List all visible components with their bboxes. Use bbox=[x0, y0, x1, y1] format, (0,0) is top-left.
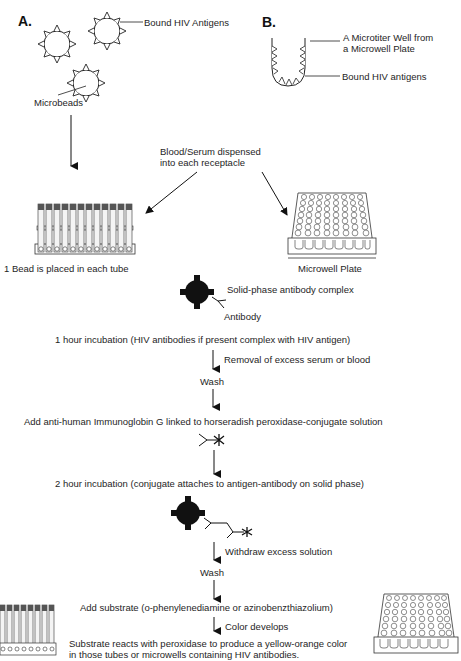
conjugate-icon bbox=[199, 434, 224, 446]
antigen-bead-icon bbox=[38, 25, 76, 63]
microbeads-label: Microbeads bbox=[34, 97, 83, 108]
bound-antigens-b-label: Bound HIV antigens bbox=[342, 71, 427, 82]
incubation2-text: 2 hour incubation (conjugate attaches to… bbox=[55, 478, 364, 489]
removal-text: Removal of excess serum or blood bbox=[224, 354, 370, 365]
dispense-line2: into each receptacle bbox=[160, 157, 245, 168]
antibody-label: Antibody bbox=[224, 311, 261, 322]
antigen-bead-icon bbox=[88, 12, 126, 50]
color-develops-text: Color develops bbox=[225, 621, 288, 632]
labeled-complex-icon bbox=[171, 496, 252, 538]
tubes-caption: 1 Bead is placed in each tube bbox=[4, 263, 129, 274]
withdraw-text: Withdraw excess solution bbox=[225, 546, 332, 557]
microwell-plate-icon bbox=[288, 193, 376, 258]
well-label-line1: A Microtiter Well from bbox=[343, 32, 433, 43]
panel-b-label: B. bbox=[262, 14, 276, 30]
solid-phase-antibody-icon bbox=[180, 275, 226, 309]
microtiter-well-icon bbox=[272, 38, 305, 86]
well-label-line2: a Microwell Plate bbox=[343, 43, 415, 54]
plate-caption: Microwell Plate bbox=[298, 263, 362, 274]
result-microwell-plate-icon bbox=[374, 594, 458, 653]
bound-antigens-label: Bound HIV Antigens bbox=[144, 17, 229, 28]
result-line2: in those tubes or microwells containing … bbox=[69, 649, 299, 660]
wash1-text: Wash bbox=[200, 376, 224, 387]
result-tube-rack-icon bbox=[0, 605, 56, 655]
test-tube-rack-icon bbox=[35, 204, 135, 254]
wash2-text: Wash bbox=[200, 567, 224, 578]
solid-phase-label: Solid-phase antibody complex bbox=[227, 284, 354, 295]
result-line1: Substrate reacts with peroxidase to prod… bbox=[69, 638, 347, 649]
add-substrate-text: Add substrate (o-phenylenediamine or azi… bbox=[80, 602, 333, 613]
dispense-line1: Blood/Serum dispensed bbox=[160, 146, 261, 157]
add-conjugate-text: Add anti-human Immunoglobin G linked to … bbox=[24, 416, 383, 427]
panel-a-label: A. bbox=[18, 13, 32, 29]
incubation1-text: 1 hour incubation (HIV antibodies if pre… bbox=[55, 334, 350, 345]
